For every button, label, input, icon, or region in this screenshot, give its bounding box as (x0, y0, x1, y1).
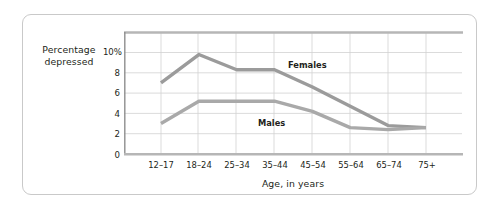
series-label-females: Females (288, 60, 327, 70)
x-axis-title: Age, in years (124, 178, 462, 189)
x-tick-label-0: 12–17 (140, 161, 182, 169)
x-tick-label-6: 65–74 (368, 161, 410, 169)
x-tick-label-7: 75+ (406, 161, 448, 169)
x-tick-label-4: 45–54 (292, 161, 334, 169)
x-tick-label-1: 18–24 (178, 161, 220, 169)
series-label-males: Males (258, 118, 285, 128)
x-tick-label-5: 55–64 (330, 161, 372, 169)
line-chart: Percentage depressed 10% 8 6 4 2 0 (0, 0, 499, 209)
x-tick-label-3: 35–44 (254, 161, 296, 169)
grid-lines (124, 33, 462, 154)
x-tick-label-2: 25–34 (216, 161, 258, 169)
